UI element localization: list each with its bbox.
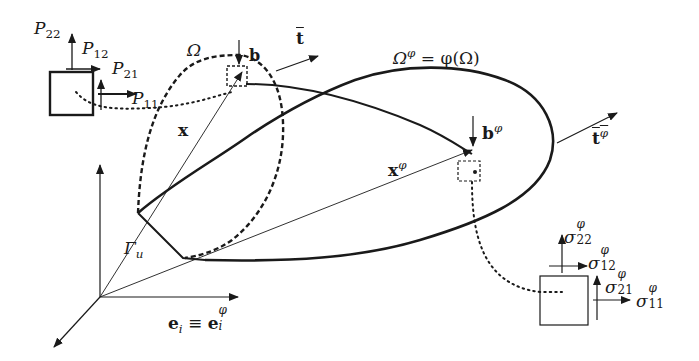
label-omega-phi: Ωφ = φ(Ω) [393,48,480,67]
omega-phi-symbol: Ω [393,48,407,68]
label-x-phi: xφ [388,160,406,179]
x-symbol: x [178,120,188,140]
material-point-box-reference [227,66,247,86]
sigma22-sup: φ [577,218,585,230]
P12-symbol: P [82,38,93,58]
axis-diagonal [54,297,100,347]
P12-sub: 12 [93,47,108,61]
sigma12-sub: 12 [601,260,616,272]
mapping-curve [246,84,472,154]
sigma21-symbol: σ [605,277,617,297]
label-sigma11: σφ11 [636,290,664,310]
gamma-symbol: Γ [124,238,136,258]
label-b-phi: bφ [482,123,502,142]
label-b: b [249,48,260,64]
basis-left: e [168,313,179,333]
P22-symbol: P [34,18,45,38]
gamma-sub: u [136,247,144,261]
label-sigma22: σφ22 [564,226,592,246]
sigma21-sub: 21 [618,284,633,296]
P11-sub: 11 [143,97,158,111]
label-basis: ei ≡ eφi [168,312,229,336]
P21-sub: 21 [123,67,138,81]
deformed-domain-omega-phi [138,68,553,261]
sigma12-symbol: σ [588,253,600,273]
traction-arrow-t [276,56,318,71]
sigma22-sub: 22 [577,234,592,246]
label-sigma12: σφ12 [588,252,616,272]
t-bar-phi-sup: φ [600,126,608,140]
stress-element-P [50,72,93,115]
label-omega: Ω [187,42,201,59]
sigma11-symbol: σ [636,291,648,311]
position-vector-x-phi [100,150,472,297]
sigma22-symbol: σ [564,227,576,247]
label-sigma21: σφ21 [605,276,633,296]
label-x: x [178,122,188,139]
label-t-bar-phi: tφ [592,128,608,147]
sigma12-sup: φ [601,244,609,256]
sigma11-sup: φ [649,282,657,294]
P21-symbol: P [112,58,123,78]
label-P21: P21 [112,60,139,81]
label-P11: P11 [132,90,159,111]
omega-symbol: Ω [187,40,201,60]
label-gamma-u: Γu [124,240,143,261]
x-phi-sup: φ [398,158,406,172]
sigma11-sub: 11 [649,298,664,310]
t-bar-symbol: t [296,28,304,48]
label-P12: P12 [82,40,109,61]
b-phi-symbol: b [482,123,494,143]
reference-domain-omega [138,55,283,258]
label-t-bar: t [296,30,304,47]
basis-right-sub: i [219,320,223,332]
stress-element-sigma [540,276,588,325]
omega-phi-rest: = φ(Ω) [415,48,479,68]
x-phi-symbol: x [388,160,398,180]
basis-equiv: ≡ [183,313,208,333]
material-point-deformed [473,170,477,174]
basis-right-sup: φ [219,304,227,316]
t-bar-phi-symbol: t [592,128,600,148]
label-P22: P22 [34,20,61,41]
basis-right: e [208,313,219,333]
b-phi-sup: φ [494,121,502,135]
P22-sub: 22 [45,27,60,41]
P11-symbol: P [132,88,143,108]
sigma21-sup: φ [618,268,626,280]
b-symbol: b [249,46,260,65]
